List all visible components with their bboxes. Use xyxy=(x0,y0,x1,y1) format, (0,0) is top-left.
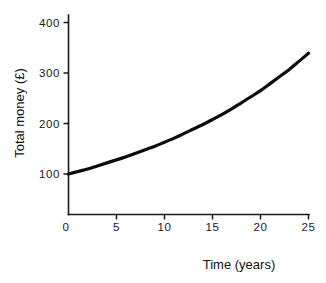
x-axis-title: Time (years) xyxy=(203,257,275,272)
y-axis-title: Total money (£) xyxy=(12,68,27,158)
chart-figure: 400 300 200 100 0 5 10 15 20 25 Time (ye… xyxy=(0,0,326,283)
x-tick-label-10: 10 xyxy=(158,221,172,233)
x-tick-label-15: 15 xyxy=(206,221,220,233)
y-tick-label-400: 400 xyxy=(39,17,60,29)
y-tick-label-300: 300 xyxy=(39,67,60,79)
x-tick-label-20: 20 xyxy=(254,221,268,233)
y-tick-label-100: 100 xyxy=(39,168,60,180)
data-series-line xyxy=(69,53,309,174)
x-tick-label-5: 5 xyxy=(113,221,120,233)
x-tick-label-25: 25 xyxy=(302,221,316,233)
y-tick-label-200: 200 xyxy=(39,118,60,130)
chart-plot-area: 400 300 200 100 0 5 10 15 20 25 Time (ye… xyxy=(0,0,326,283)
x-tick-label-0: 0 xyxy=(63,221,70,233)
